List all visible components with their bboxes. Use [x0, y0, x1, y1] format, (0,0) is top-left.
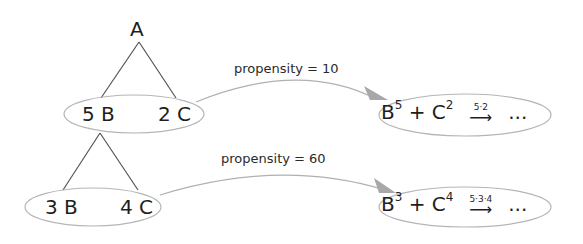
rate-arrow: 5·3·4⟶ — [466, 195, 496, 216]
species-b: B — [381, 100, 395, 124]
propensity-arrow-1 — [196, 80, 376, 102]
result-expression-1: B5 + C2 5·2⟶ ... — [381, 100, 527, 124]
rate-arrow: 5·2⟶ — [466, 103, 496, 124]
node-5b-label: 5 B — [82, 102, 115, 126]
exponent: 5 — [395, 98, 403, 112]
species-c: C — [432, 100, 446, 124]
tree-edge — [101, 42, 139, 98]
tree-edge — [139, 42, 176, 98]
node-2c-label: 2 C — [158, 102, 191, 126]
node-3b-label: 3 B — [45, 195, 78, 219]
ellipsis: ... — [508, 100, 527, 124]
tree-edge — [63, 133, 100, 190]
propensity-arrow-2 — [160, 175, 385, 195]
exponent: 3 — [395, 190, 403, 204]
arrowhead-icon — [374, 178, 396, 193]
species-b: B — [381, 192, 395, 216]
species-c: C — [432, 192, 446, 216]
exponent: 4 — [446, 190, 454, 204]
exponent: 2 — [446, 98, 454, 112]
arrowhead-icon — [364, 86, 388, 100]
right-arrow-icon: ⟶ — [466, 204, 496, 216]
ellipsis: ... — [508, 192, 527, 216]
tree-edge — [100, 133, 138, 190]
propensity-label-2: propensity = 60 — [221, 151, 326, 166]
plus-sign: + — [409, 192, 426, 216]
root-node-label: A — [130, 17, 144, 41]
plus-sign: + — [409, 100, 426, 124]
node-4c-label: 4 C — [120, 195, 153, 219]
result-expression-2: B3 + C4 5·3·4⟶ ... — [381, 192, 527, 216]
propensity-label-1: propensity = 10 — [234, 61, 339, 76]
right-arrow-icon: ⟶ — [466, 112, 496, 124]
